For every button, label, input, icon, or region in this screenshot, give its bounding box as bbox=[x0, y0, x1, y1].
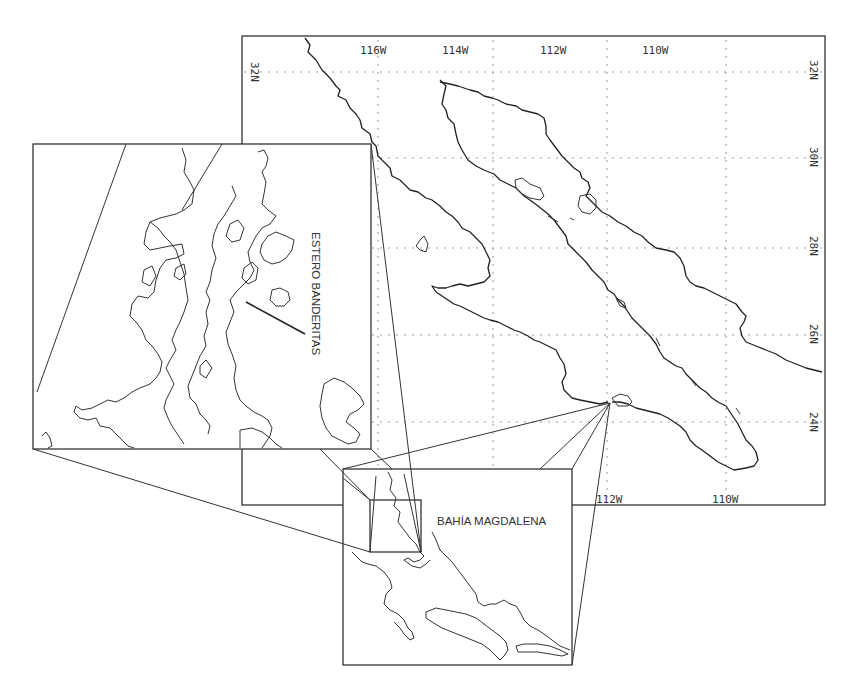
estero-banderitas-label: ESTERO BANDERITAS bbox=[310, 232, 322, 355]
latitude-labels-right: 32N 30N 28N 26N 24N bbox=[807, 60, 820, 432]
svg-text:116W: 116W bbox=[360, 44, 387, 57]
svg-text:26N: 26N bbox=[807, 324, 820, 344]
longitude-labels-top: 116W 114W 112W 110W bbox=[360, 44, 669, 57]
svg-text:110W: 110W bbox=[712, 493, 739, 506]
island-gulf-2 bbox=[570, 218, 574, 220]
bahia-magdalena-label: BAHÍA MAGDALENA bbox=[437, 515, 547, 527]
island-west-coast bbox=[416, 236, 428, 252]
isla-angel-de-la-guarda bbox=[515, 178, 544, 200]
svg-text:114W: 114W bbox=[442, 44, 469, 57]
map-figure: 116W 114W 112W 110W 112W 110W 32N 32N 30… bbox=[0, 0, 852, 683]
svg-text:112W: 112W bbox=[596, 493, 623, 506]
mainland-coastline bbox=[440, 82, 822, 372]
svg-text:30N: 30N bbox=[807, 147, 820, 167]
island-gulf-5 bbox=[690, 378, 696, 386]
baja-east-coastline bbox=[440, 80, 758, 470]
svg-text:110W: 110W bbox=[642, 44, 669, 57]
latitude-labels-left: 32N bbox=[248, 62, 261, 82]
bay-inset: BAHÍA MAGDALENA bbox=[343, 469, 572, 665]
svg-text:24N: 24N bbox=[807, 412, 820, 432]
svg-text:32N: 32N bbox=[248, 62, 261, 82]
detail-inset: ESTERO BANDERITAS bbox=[33, 144, 371, 449]
svg-text:112W: 112W bbox=[540, 44, 567, 57]
svg-text:28N: 28N bbox=[807, 236, 820, 256]
island-gulf-1 bbox=[548, 216, 558, 222]
svg-text:32N: 32N bbox=[807, 60, 820, 80]
island-gulf-6 bbox=[736, 408, 740, 414]
longitude-labels-bottom: 112W 110W bbox=[596, 493, 739, 506]
